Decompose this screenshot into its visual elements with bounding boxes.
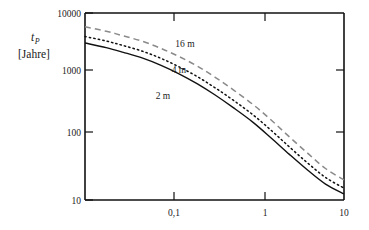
series-line-16m — [85, 27, 344, 180]
series-label-2m: 2 m — [156, 91, 171, 101]
plot-frame — [85, 13, 344, 200]
y-tick-label-10: 10 — [72, 196, 82, 206]
data-series-group — [85, 27, 344, 194]
chart-figure: 10000 1000 100 10 0,1 1 10 tP [Jahre] 16… — [0, 0, 369, 230]
series-label-4m: 4 m — [172, 65, 187, 75]
y-tick-label-10000: 10000 — [57, 9, 81, 19]
y-tick-label-100: 100 — [67, 128, 82, 138]
y-tick-label-1000: 1000 — [62, 66, 81, 76]
series-line-2m — [85, 43, 344, 194]
series-line-4m — [85, 36, 344, 188]
series-label-16m: 16 m — [175, 39, 195, 49]
x-tick-label-0-1: 0,1 — [168, 208, 180, 218]
y-tick-marks — [85, 13, 344, 200]
y-axis-title-symbol: tP — [31, 31, 40, 46]
y-tick-labels: 10000 1000 100 10 — [57, 9, 81, 206]
log-log-line-chart: 10000 1000 100 10 0,1 1 10 tP [Jahre] 16… — [0, 0, 369, 230]
x-tick-label-10: 10 — [339, 208, 349, 218]
x-tick-labels: 0,1 1 10 — [168, 208, 349, 218]
y-axis-title-subscript: P — [34, 37, 40, 46]
series-annotations: 16 m 4 m 2 m — [156, 39, 196, 101]
y-axis-title-unit: [Jahre] — [18, 48, 50, 60]
y-axis-title: tP [Jahre] — [18, 31, 50, 60]
x-tick-label-1: 1 — [263, 208, 268, 218]
